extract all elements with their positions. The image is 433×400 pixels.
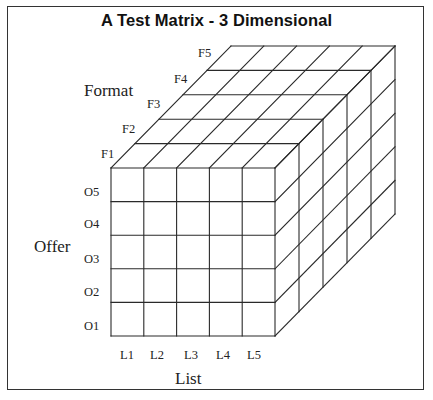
format-tick-f2: F2 — [122, 123, 135, 136]
test-matrix-cube — [0, 0, 433, 400]
offer-tick-o1: O1 — [84, 320, 99, 333]
offer-axis-label: Offer — [34, 238, 71, 255]
list-tick-l4: L4 — [216, 349, 230, 362]
format-axis-label: Format — [84, 82, 133, 99]
list-tick-l5: L5 — [247, 349, 261, 362]
offer-tick-o3: O3 — [84, 253, 99, 266]
offer-tick-o2: O2 — [84, 286, 99, 299]
offer-tick-o5: O5 — [84, 186, 99, 199]
list-tick-l1: L1 — [120, 349, 134, 362]
offer-tick-o4: O4 — [84, 218, 99, 231]
cube-grid-lines — [111, 46, 395, 336]
format-tick-f4: F4 — [174, 73, 187, 86]
format-tick-f3: F3 — [147, 98, 160, 111]
list-axis-label: List — [175, 370, 201, 387]
format-tick-f1: F1 — [101, 148, 114, 161]
list-tick-l3: L3 — [184, 349, 198, 362]
format-tick-f5: F5 — [198, 47, 211, 60]
list-tick-l2: L2 — [150, 349, 164, 362]
